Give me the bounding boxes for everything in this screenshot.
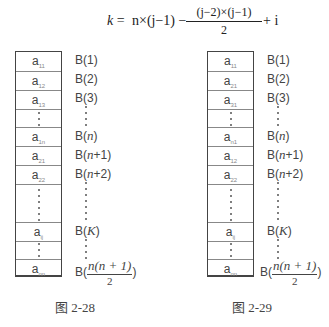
ellipsis-cell: [208, 109, 253, 127]
formula: k = n×(j−1) − (j−2)×(j−1) 2 + i: [0, 2, 329, 42]
formula-lhs: k =: [107, 13, 125, 29]
formula-fraction-denominator: 2: [186, 22, 262, 38]
ellipsis-cell: [208, 241, 253, 259]
address-label: B(2): [75, 72, 98, 86]
address-label: B(n(n + 1)2): [260, 258, 321, 287]
address-label: B(1): [267, 53, 290, 67]
address-label: B(n): [267, 128, 290, 144]
address-label: B(n+1): [267, 147, 303, 163]
array-cell: a12: [16, 71, 61, 90]
ellipsis-cell: [16, 241, 61, 259]
array-cell: a1n: [16, 127, 61, 146]
address-label: B(n+2): [267, 166, 303, 182]
formula-fraction: (j−2)×(j−1) 2: [186, 5, 262, 38]
figure-caption: 图 2-29: [232, 297, 272, 316]
ellipsis-cell: [16, 184, 61, 222]
address-label: B(3): [267, 91, 290, 105]
array-cell: a11: [208, 52, 253, 71]
array-cell: a21: [16, 146, 61, 165]
array-cell: a13: [16, 90, 61, 109]
ellipsis-cell: [208, 184, 253, 222]
formula-fraction-numerator: (j−2)×(j−1): [186, 5, 262, 22]
address-label: B(n(n + 1)2): [75, 258, 136, 287]
array-cell: ann: [16, 259, 61, 275]
array-cell: a31: [208, 90, 253, 109]
array-cell: aij: [16, 222, 61, 241]
array-cell: ann: [208, 259, 253, 275]
address-label: B(n): [75, 128, 98, 144]
array-cell: a11: [16, 52, 61, 71]
formula-term1: n×(j−1) −: [132, 13, 186, 29]
array-cell: aij: [208, 222, 253, 241]
array-cell: an1: [208, 127, 253, 146]
array-cell: a22: [208, 165, 253, 184]
address-label: B(2): [267, 72, 290, 86]
storage-array-box: a11 a21 a31 an1 a12 a22 aij ann: [207, 51, 254, 277]
formula-tail: + i: [263, 13, 278, 29]
ellipsis-cell: [16, 109, 61, 127]
array-cell: a21: [208, 71, 253, 90]
array-cell: a12: [208, 146, 253, 165]
address-label: B(n+2): [75, 166, 111, 182]
array-cell: a22: [16, 165, 61, 184]
address-label: B(K): [267, 223, 292, 239]
storage-array-box: a11 a12 a13 a1n a21 a22 aij ann: [15, 51, 62, 277]
address-label: B(1): [75, 53, 98, 67]
address-label: B(K): [75, 223, 100, 239]
address-label: B(3): [75, 91, 98, 105]
figure-caption: 图 2-28: [55, 297, 95, 316]
address-label: B(n+1): [75, 147, 111, 163]
